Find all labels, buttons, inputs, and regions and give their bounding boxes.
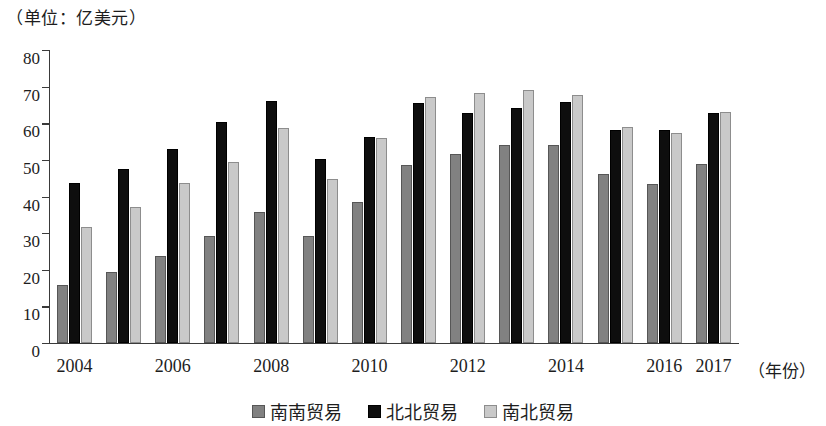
unit-caption: （单位：亿美元） — [6, 4, 146, 29]
chart-legend: 南南贸易北北贸易南北贸易 — [0, 398, 826, 424]
bar — [216, 122, 227, 343]
y-axis-tick — [42, 87, 50, 88]
bar-group — [50, 50, 99, 343]
bar — [499, 145, 510, 344]
bar — [376, 138, 387, 343]
x-axis-label: 2016 — [646, 356, 682, 377]
plot-area — [50, 50, 738, 343]
y-axis-label: 0 — [2, 343, 40, 360]
x-axis-label: 2010 — [351, 356, 387, 377]
bar — [622, 127, 633, 343]
bar — [708, 113, 719, 343]
legend-item[interactable]: 南南贸易 — [252, 398, 342, 424]
bar — [572, 95, 583, 343]
x-axis-label: 2004 — [57, 356, 93, 377]
bar — [179, 183, 190, 343]
y-axis-label: 30 — [2, 233, 40, 250]
bar-group — [99, 50, 148, 343]
bar — [450, 154, 461, 343]
y-axis-tick — [42, 343, 50, 344]
y-axis-tick — [42, 123, 50, 124]
bar-group — [197, 50, 246, 343]
bar — [315, 159, 326, 343]
bar — [610, 130, 621, 343]
bar — [266, 101, 277, 343]
legend-label: 北北贸易 — [386, 398, 458, 424]
legend-item[interactable]: 北北贸易 — [368, 398, 458, 424]
y-axis-label: 50 — [2, 160, 40, 177]
bar — [81, 227, 92, 343]
bar — [511, 108, 522, 343]
bar — [474, 93, 485, 344]
bar-group — [443, 50, 492, 343]
bar-group — [247, 50, 296, 343]
bar — [155, 256, 166, 343]
y-axis-tick — [42, 197, 50, 198]
bar — [352, 202, 363, 343]
y-axis-tick — [42, 160, 50, 161]
bar — [69, 183, 80, 343]
bar — [659, 130, 670, 343]
bar-group — [394, 50, 443, 343]
bar — [254, 212, 265, 343]
bar — [401, 165, 412, 343]
bar-group — [492, 50, 541, 343]
y-axis-label: 80 — [2, 50, 40, 67]
bar-group — [541, 50, 590, 343]
bar — [327, 179, 338, 343]
x-axis-label: 2014 — [548, 356, 584, 377]
legend-item[interactable]: 南北贸易 — [484, 398, 574, 424]
bar-group — [148, 50, 197, 343]
bar — [647, 184, 658, 343]
bar — [167, 149, 178, 343]
bar — [548, 145, 559, 343]
legend-swatch-icon — [484, 405, 497, 418]
bar — [560, 102, 571, 343]
x-axis-label: 2017 — [695, 356, 731, 377]
y-axis-label: 20 — [2, 270, 40, 287]
y-axis-label: 10 — [2, 306, 40, 323]
y-axis-tick — [42, 233, 50, 234]
x-axis-label: 2006 — [155, 356, 191, 377]
legend-swatch-icon — [252, 405, 265, 418]
bar-group — [689, 50, 738, 343]
x-axis-title: （年份） — [748, 357, 816, 382]
bar — [720, 112, 731, 343]
bar-group — [345, 50, 394, 343]
bar-group — [640, 50, 689, 343]
bar — [523, 90, 534, 343]
bar — [303, 236, 314, 343]
bar — [462, 113, 473, 343]
bar — [671, 133, 682, 343]
bar — [696, 164, 707, 343]
y-axis-label: 60 — [2, 123, 40, 140]
bar-chart: （单位：亿美元） 01020304050607080 2004200620082… — [0, 0, 826, 426]
y-axis-label: 70 — [2, 87, 40, 104]
y-axis-tick — [42, 306, 50, 307]
y-axis-tick — [42, 270, 50, 271]
bar — [106, 272, 117, 343]
y-axis-label: 40 — [2, 197, 40, 214]
y-axis-tick — [42, 50, 50, 51]
bar — [364, 137, 375, 343]
legend-swatch-icon — [368, 405, 381, 418]
bar — [413, 103, 424, 343]
bar — [278, 128, 289, 343]
bar — [425, 97, 436, 343]
bar — [57, 285, 68, 343]
bar — [118, 169, 129, 343]
bar-group — [296, 50, 345, 343]
x-axis-label: 2012 — [450, 356, 486, 377]
bar — [204, 236, 215, 343]
x-axis-label: 2008 — [253, 356, 289, 377]
x-axis-line — [49, 343, 739, 344]
bar-group — [591, 50, 640, 343]
bar — [228, 162, 239, 343]
legend-label: 南北贸易 — [502, 398, 574, 424]
bar — [598, 174, 609, 343]
bar — [130, 207, 141, 343]
legend-label: 南南贸易 — [270, 398, 342, 424]
